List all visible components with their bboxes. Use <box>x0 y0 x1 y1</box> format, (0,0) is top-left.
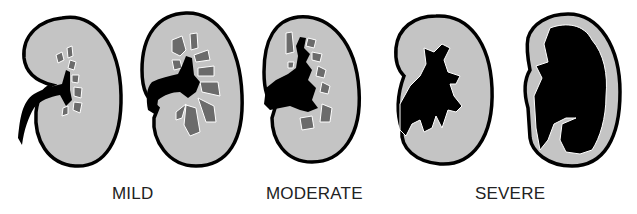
label-severe: SEVERE <box>475 184 545 204</box>
label-moderate: MODERATE <box>266 184 363 204</box>
kidney-mild-2 <box>142 13 242 166</box>
kidney-mild-1 <box>18 17 121 166</box>
hydronephrosis-diagram <box>0 0 637 214</box>
kidney-severe-1 <box>396 16 492 164</box>
label-mild: MILD <box>112 184 153 204</box>
kidney-moderate <box>264 17 359 162</box>
kidney-severe-2 <box>525 14 620 166</box>
